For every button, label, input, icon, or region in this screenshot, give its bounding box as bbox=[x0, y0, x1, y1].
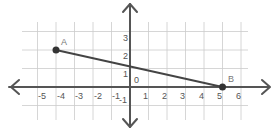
point-a-label: A bbox=[61, 37, 67, 47]
point-b bbox=[219, 84, 226, 91]
x-tick-label: 4 bbox=[199, 91, 204, 101]
y-tick-label: -1 bbox=[119, 95, 127, 105]
coordinate-plane: -5 -4 -3 -2 -1 1 2 3 4 5 6 3 2 1 -1 0 A … bbox=[0, 0, 276, 130]
origin-label: 0 bbox=[134, 75, 139, 85]
x-tick-label: 3 bbox=[180, 91, 185, 101]
x-tick-label: -3 bbox=[75, 91, 83, 101]
x-tick-label: 5 bbox=[217, 91, 222, 101]
y-tick-label: 2 bbox=[123, 51, 128, 61]
point-a bbox=[53, 47, 60, 54]
grid bbox=[22, 22, 248, 120]
x-tick-label: -2 bbox=[94, 91, 102, 101]
y-tick-label: 3 bbox=[123, 33, 128, 43]
x-tick-labels: -5 -4 -3 -2 -1 1 2 3 4 5 6 bbox=[38, 91, 241, 101]
y-tick-label: 1 bbox=[123, 69, 128, 79]
x-tick-label: -4 bbox=[57, 91, 65, 101]
x-tick-label: 6 bbox=[236, 91, 241, 101]
point-b-label: B bbox=[228, 74, 234, 84]
x-tick-label: -5 bbox=[38, 91, 46, 101]
x-tick-label: 2 bbox=[162, 91, 167, 101]
x-tick-label: 1 bbox=[143, 91, 148, 101]
